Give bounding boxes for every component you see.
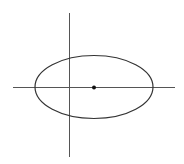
- center-point: [92, 86, 96, 90]
- ellipse-diagram: [0, 0, 184, 164]
